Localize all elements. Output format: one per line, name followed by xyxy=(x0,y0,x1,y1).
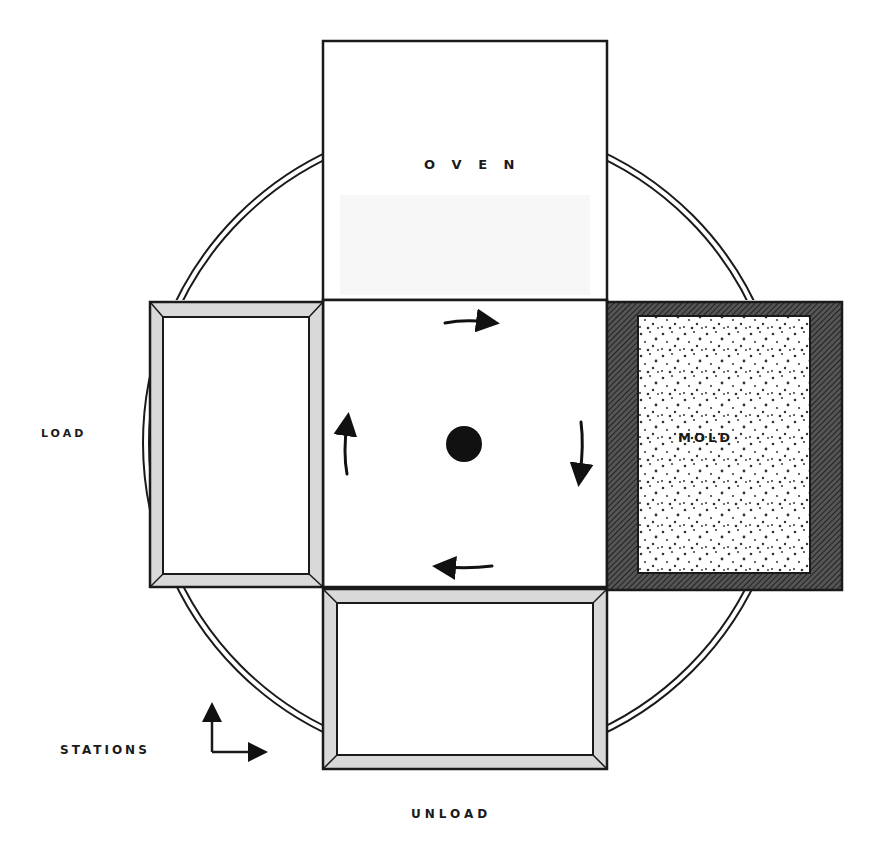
stations-axis-icon xyxy=(212,712,258,752)
pivot-point xyxy=(446,426,482,462)
stations-label: STATIONS xyxy=(60,744,150,756)
load-label: LOAD xyxy=(41,428,86,439)
rotomolding-diagram xyxy=(0,0,880,856)
mold-label: MOLD xyxy=(678,431,733,444)
rotating-arm-hub xyxy=(323,300,607,587)
unload-station xyxy=(323,589,607,769)
arrow-icon-left xyxy=(444,566,492,568)
load-station xyxy=(150,302,323,587)
oven-label: O V E N xyxy=(424,158,520,171)
unload-label: UNLOAD xyxy=(411,808,491,820)
mold-station xyxy=(607,302,842,590)
